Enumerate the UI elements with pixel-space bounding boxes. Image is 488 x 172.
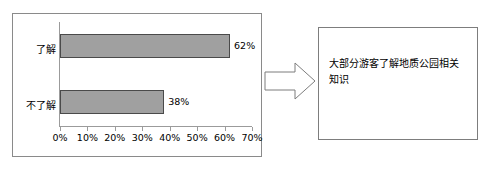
category-label-0: 了解 [0,41,56,56]
conclusion-box: 大部分游客了解地质公园相关知识 [318,27,478,140]
x-tick-mark [197,127,198,131]
bar-chart-panel: 了解 不了解 62% 38% 0%10%20%30%40%50%60%70% [12,13,262,157]
x-tick-mark [60,127,61,131]
x-tick-label: 30% [132,132,153,143]
x-tick-mark [225,127,226,131]
x-tick-label: 10% [77,132,98,143]
right-block-arrow-icon [264,61,316,101]
bar-understand [60,34,230,58]
x-tick-mark [142,127,143,131]
category-label-1: 不了解 [0,97,56,112]
plot-area: 了解 不了解 62% 38% 0%10%20%30%40%50%60%70% [13,14,261,156]
bar-not-understand [60,90,164,114]
x-tick-mark [87,127,88,131]
bar-value-label-0: 62% [234,40,255,51]
bar-value-label-1: 38% [168,96,189,107]
x-tick-label: 20% [104,132,125,143]
x-tick-mark [170,127,171,131]
x-tick-label: 70% [241,132,262,143]
conclusion-text: 大部分游客了解地质公园相关知识 [329,56,465,88]
x-tick-label: 60% [214,132,235,143]
x-tick-mark [252,127,253,131]
x-tick-label: 40% [159,132,180,143]
x-tick-label: 50% [187,132,208,143]
x-tick-label: 0% [52,132,67,143]
x-tick-mark [115,127,116,131]
